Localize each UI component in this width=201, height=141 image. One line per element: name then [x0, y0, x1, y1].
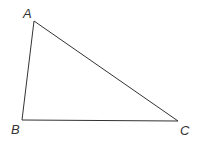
- vertex-label-a: A: [22, 6, 32, 21]
- vertex-label-c: C: [180, 123, 190, 138]
- triangle-abc: [22, 21, 178, 121]
- triangle-diagram: A B C: [0, 0, 201, 141]
- vertex-label-b: B: [11, 122, 20, 137]
